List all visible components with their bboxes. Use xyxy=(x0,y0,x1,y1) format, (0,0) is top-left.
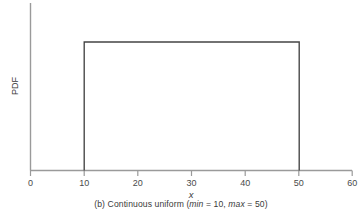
x-tick-label-10: 10 xyxy=(79,178,89,188)
x-axis-tick-labels: 0 10 20 30 40 50 60 xyxy=(28,178,357,188)
x-tick-label-0: 0 xyxy=(28,178,33,188)
x-tick-label-20: 20 xyxy=(133,178,143,188)
x-tick-label-60: 60 xyxy=(347,178,357,188)
caption-min-name: min xyxy=(189,199,203,209)
uniform-pdf-curve xyxy=(84,42,299,171)
caption-max-value: = 50) xyxy=(245,199,268,209)
figure-continuous-uniform-pdf: 0 10 20 30 40 50 60 x PDF (b) Continuous… xyxy=(0,0,362,217)
caption-prefix: (b) Continuous uniform ( xyxy=(94,199,189,209)
x-tick-label-40: 40 xyxy=(240,178,250,188)
x-axis-ticks xyxy=(31,171,353,177)
x-tick-label-50: 50 xyxy=(294,178,304,188)
x-tick-label-30: 30 xyxy=(186,178,196,188)
figure-caption: (b) Continuous uniform (min = 10, max = … xyxy=(0,199,362,209)
caption-min-value: = 10, xyxy=(204,199,229,209)
y-axis-title: PDF xyxy=(10,76,20,95)
chart-plot-area: 0 10 20 30 40 50 60 x PDF xyxy=(0,0,362,217)
caption-max-name: max xyxy=(228,199,245,209)
